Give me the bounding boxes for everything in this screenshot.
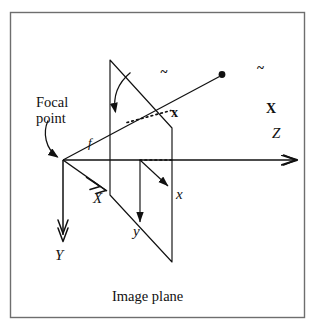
image-point-tilde-accent: ~ [161,65,168,80]
axis-Y-label: Y [55,247,63,264]
world-point-tilde-accent: ~ [257,61,264,76]
focal-point-label-line2: point [36,110,66,126]
diagram-canvas [0,0,319,333]
focal-point-label-line1: Focal [36,94,68,110]
axis-x-image-label: x [176,186,183,203]
image-point-label: ~ x [136,58,178,152]
focal-length-label: f [88,136,92,151]
image-point-leader-arrow [115,73,131,113]
axis-X-label: X [93,190,102,207]
world-point-marker [219,71,226,78]
axis-x-image-line [140,160,168,186]
world-point-label-base: X [266,101,276,116]
figure-container: Focal point f X Y Z x y ~ x ~ X Image pl… [0,0,319,333]
world-point-label: ~ X [231,54,276,148]
image-point-label-base: x [171,105,178,120]
axis-y-image-label: y [133,223,140,240]
axis-X-arrow-second [87,178,101,190]
image-plane-caption: Image plane [112,288,183,304]
